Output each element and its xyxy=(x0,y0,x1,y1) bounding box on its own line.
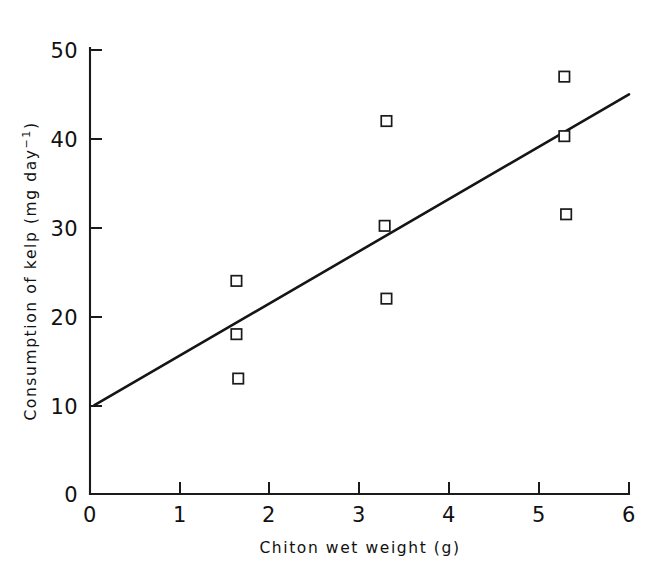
x-axis-title: Chiton wet weight (g) xyxy=(259,539,460,557)
data-point-marker xyxy=(559,71,569,81)
data-point-marker xyxy=(381,116,391,126)
data-point-marker xyxy=(231,276,241,286)
data-point-marker xyxy=(233,373,243,383)
data-point-marker xyxy=(561,209,571,219)
y-axis-title: Consumption of kelp (mg day−1) xyxy=(20,121,40,420)
x-tick-label-3: 3 xyxy=(352,503,366,527)
y-tick-label-10: 10 xyxy=(50,395,78,419)
data-point-marker xyxy=(231,329,241,339)
data-point-marker xyxy=(559,131,569,141)
chart-figure: 50 40 30 20 10 0 0 1 2 3 4 5 6 Chiton we… xyxy=(0,0,651,572)
x-tick-label-5: 5 xyxy=(532,503,546,527)
data-point-marker xyxy=(381,293,391,303)
y-tick-label-50: 50 xyxy=(50,39,78,63)
y-axis-title-main: Consumption of kelp (mg day xyxy=(22,148,40,420)
x-tick-label-6: 6 xyxy=(622,503,636,527)
y-tick-label-0: 0 xyxy=(64,483,78,507)
x-tick-label-2: 2 xyxy=(262,503,276,527)
x-tick-label-4: 4 xyxy=(442,503,456,527)
y-tick-label-40: 40 xyxy=(50,128,78,152)
y-axis-title-group: Consumption of kelp (mg day−1) xyxy=(20,121,40,420)
x-tick-label-1: 1 xyxy=(173,503,187,527)
plot-background xyxy=(0,0,651,572)
scatter-plot: 50 40 30 20 10 0 0 1 2 3 4 5 6 Chiton we… xyxy=(0,0,651,572)
y-axis-title-superscript: −1 xyxy=(20,129,33,148)
y-axis-title-tail: ) xyxy=(22,121,40,129)
data-point-marker xyxy=(379,221,389,231)
y-tick-label-30: 30 xyxy=(50,217,78,241)
x-tick-label-0: 0 xyxy=(83,503,97,527)
y-tick-label-20: 20 xyxy=(50,306,78,330)
